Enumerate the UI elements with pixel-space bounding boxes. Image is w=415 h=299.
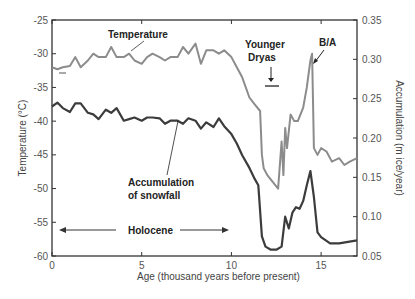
temperature-series-line (52, 44, 357, 189)
left-tick-label: -60 (34, 251, 49, 262)
temperature-pointer-line (131, 41, 144, 51)
holocene-left-arrowhead-icon (59, 227, 66, 233)
left-tick-label: -35 (34, 82, 49, 93)
accumulation-pointer-line (167, 121, 178, 175)
right-tick-label: 0.05 (362, 251, 382, 262)
left-tick-label: -55 (34, 217, 49, 228)
paleoclimate-chart: -25-30-35-40-45-50-55-60 0.350.300.250.2… (0, 0, 415, 299)
right-tick-label: 0.25 (362, 93, 382, 104)
accumulation-series-line (52, 103, 357, 250)
accumulation-label-line1: Accumulation (128, 177, 194, 188)
ba-label: B/A (319, 37, 336, 48)
right-tick-label: 0.10 (362, 211, 382, 222)
right-tick-label: 0.30 (362, 54, 382, 65)
younger-dryas-label-line2: Dryas (248, 52, 276, 63)
left-tick-label: -40 (34, 116, 49, 127)
x-tick-label: 0 (49, 260, 55, 271)
right-tick-label: 0.20 (362, 133, 382, 144)
x-tick-label: 5 (139, 260, 145, 271)
x-tick-label: 15 (316, 260, 328, 271)
y-axis-title-right: Accumulation (m ice/year) (394, 80, 405, 196)
y-axis-title-left: Temperature (°C) (17, 100, 28, 177)
left-tick-label: -45 (34, 149, 49, 160)
x-tick-label: 10 (226, 260, 238, 271)
holocene-label: Holocene (128, 225, 173, 236)
accumulation-label-line2: of snowfall (128, 190, 180, 201)
left-tick-label: -25 (34, 15, 49, 26)
x-axis-title: Age (thousand years before present) (137, 271, 300, 282)
temperature-annotation: Temperature (108, 29, 168, 40)
right-tick-label: 0.35 (362, 15, 382, 26)
left-tick-label: -50 (34, 183, 49, 194)
holocene-right-arrowhead-icon (222, 227, 229, 233)
younger-dryas-arrowhead-icon (268, 78, 274, 82)
younger-dryas-label-line1: Younger (245, 39, 285, 50)
right-tick-label: 0.15 (362, 172, 382, 183)
left-tick-label: -30 (34, 48, 49, 59)
